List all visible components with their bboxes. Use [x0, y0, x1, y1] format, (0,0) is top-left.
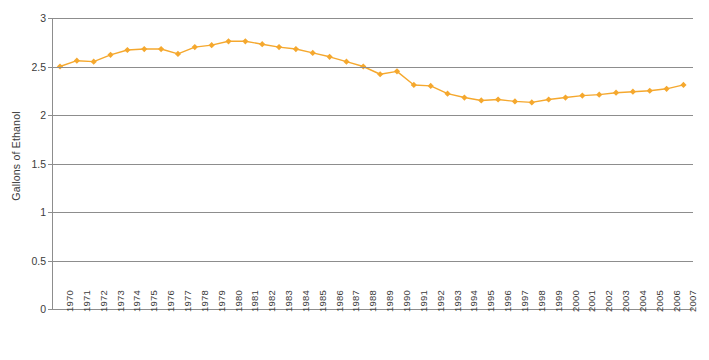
x-tick-label: 1973: [115, 290, 126, 312]
ethanol-consumption-chart: Gallons of Ethanol 00.511.522.53 1970197…: [0, 0, 709, 360]
data-point-marker: [596, 92, 602, 98]
data-point-marker: [461, 94, 467, 100]
data-point-marker: [579, 93, 585, 99]
series-line: [60, 41, 683, 102]
x-tick-label: 1999: [553, 290, 564, 312]
x-tick-label: 1977: [182, 290, 193, 312]
data-point-marker: [680, 82, 686, 88]
x-tick-label: 2007: [687, 290, 698, 312]
data-point-marker: [546, 96, 552, 102]
data-point-marker: [495, 96, 501, 102]
x-tick-label: 1981: [249, 290, 260, 312]
data-point-marker: [107, 52, 113, 58]
y-tick-label: 2.5: [22, 62, 46, 72]
y-tick-label: 0: [22, 304, 46, 314]
x-tick-label: 1995: [485, 290, 496, 312]
data-point-marker: [562, 94, 568, 100]
plot-area: [52, 18, 693, 309]
x-tick-label: 1996: [502, 290, 513, 312]
y-tick-label: 3: [22, 13, 46, 23]
x-tick-label: 2001: [586, 290, 597, 312]
y-tick-mark: [48, 115, 52, 116]
x-tick-label: 1991: [418, 290, 429, 312]
x-tick-label: 2006: [671, 290, 682, 312]
x-tick-label: 1984: [300, 290, 311, 312]
data-point-marker: [124, 47, 130, 53]
data-point-marker: [259, 41, 265, 47]
y-tick-mark: [48, 309, 52, 310]
data-point-marker: [158, 46, 164, 52]
x-tick-label: 1993: [452, 290, 463, 312]
data-point-marker: [512, 98, 518, 104]
y-axis-tick-labels: 00.511.522.53: [22, 0, 46, 360]
x-tick-label: 2005: [654, 290, 665, 312]
x-tick-label: 1987: [350, 290, 361, 312]
x-tick-label: 1997: [519, 290, 530, 312]
y-tick-mark: [48, 212, 52, 213]
y-tick-label: 1: [22, 207, 46, 217]
data-point-marker: [242, 38, 248, 44]
y-tick-label: 1.5: [22, 159, 46, 169]
x-tick-label: 1975: [148, 290, 159, 312]
x-tick-label: 1985: [317, 290, 328, 312]
x-tick-label: 1979: [216, 290, 227, 312]
data-point-marker: [141, 46, 147, 52]
data-point-marker: [192, 44, 198, 50]
x-tick-label: 2002: [603, 290, 614, 312]
x-tick-label: 1978: [199, 290, 210, 312]
y-tick-mark: [48, 164, 52, 165]
data-point-marker: [276, 44, 282, 50]
data-point-marker: [377, 71, 383, 77]
x-tick-label: 1986: [334, 290, 345, 312]
data-point-marker: [310, 50, 316, 56]
data-point-marker: [664, 86, 670, 92]
x-tick-label: 1980: [233, 290, 244, 312]
x-tick-label: 1989: [384, 290, 395, 312]
x-tick-label: 1988: [367, 290, 378, 312]
data-point-marker: [428, 83, 434, 89]
x-tick-label: 1974: [131, 290, 142, 312]
x-tick-label: 2000: [570, 290, 581, 312]
y-axis-title: Gallons of Ethanol: [10, 56, 22, 256]
x-tick-label: 1976: [165, 290, 176, 312]
x-tick-label: 1992: [435, 290, 446, 312]
x-tick-label: 1982: [266, 290, 277, 312]
y-tick-mark: [48, 67, 52, 68]
data-point-marker: [209, 42, 215, 48]
data-point-marker: [74, 58, 80, 64]
x-tick-label: 1970: [64, 290, 75, 312]
x-tick-label: 1971: [81, 290, 92, 312]
y-tick-label: 0.5: [22, 256, 46, 266]
data-point-marker: [647, 88, 653, 94]
y-tick-mark: [48, 261, 52, 262]
data-point-marker: [444, 91, 450, 97]
gridline-2.5: [52, 67, 693, 68]
y-tick-label: 2: [22, 110, 46, 120]
data-point-marker: [225, 38, 231, 44]
gridline-0.5: [52, 261, 693, 262]
data-point-marker: [327, 54, 333, 60]
data-point-marker: [529, 99, 535, 105]
data-point-marker: [613, 90, 619, 96]
x-axis-tick-labels: 1970197119721973197419751976197719781979…: [52, 312, 693, 360]
x-tick-label: 1994: [468, 290, 479, 312]
x-tick-label: 2004: [637, 290, 648, 312]
x-tick-label: 1983: [283, 290, 294, 312]
data-point-marker: [175, 51, 181, 57]
data-point-marker: [343, 59, 349, 65]
data-point-marker: [91, 59, 97, 65]
x-tick-label: 1998: [536, 290, 547, 312]
gridline-1: [52, 212, 693, 213]
data-point-marker: [478, 97, 484, 103]
data-point-marker: [630, 89, 636, 95]
y-tick-mark: [48, 18, 52, 19]
gridline-3: [52, 18, 693, 19]
x-tick-label: 1990: [401, 290, 412, 312]
x-tick-label: 2003: [620, 290, 631, 312]
x-tick-label: 1972: [98, 290, 109, 312]
gridline-1.5: [52, 164, 693, 165]
gridline-2: [52, 115, 693, 116]
data-point-marker: [293, 46, 299, 52]
